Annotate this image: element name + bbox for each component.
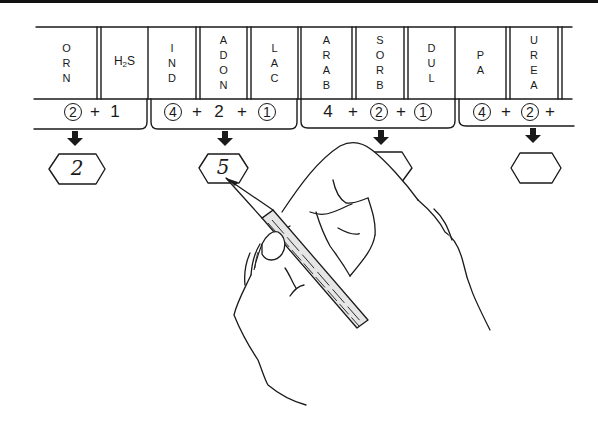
header-letter: B <box>323 78 330 93</box>
circled-score: 2 <box>370 103 388 121</box>
result-hexagon-4 <box>511 153 561 183</box>
test-header-h2s: H2S <box>101 28 148 98</box>
header-letter: U <box>428 56 436 71</box>
header-letter: R <box>323 48 331 63</box>
plus-sign: + <box>82 102 108 122</box>
test-header-ind: I N D <box>148 28 196 98</box>
header-letter: N <box>168 56 176 71</box>
score-value: 2 <box>212 102 226 122</box>
header-letter: A <box>323 63 330 78</box>
header-letter: R <box>63 56 71 71</box>
circled-score: 2 <box>64 103 82 121</box>
header-letter: A <box>477 63 484 78</box>
header-letter: S <box>376 33 383 48</box>
header-letter: P <box>477 48 484 63</box>
header-letter: I <box>170 41 173 56</box>
header-letter: L <box>428 71 434 86</box>
header-letter: O <box>62 41 71 56</box>
header-letter: O <box>219 63 228 78</box>
header-letter: D <box>220 48 228 63</box>
score-group-2: 4 + 2 + 1 <box>164 100 276 124</box>
score-value: 1 <box>108 102 122 122</box>
plus-sign: + <box>336 102 370 122</box>
plus-sign: + <box>182 102 212 122</box>
test-header-pa: P A <box>455 28 506 98</box>
arrow-down-icon <box>525 128 541 143</box>
arrows <box>67 128 541 146</box>
plus-sign: + <box>226 102 258 122</box>
circled-score: 1 <box>258 103 276 121</box>
test-header-lac: L A C <box>251 28 298 98</box>
test-header-adon: A D O N <box>200 28 247 98</box>
score-group-4: 4 + 2 + <box>473 100 561 124</box>
header-letter: N <box>63 71 71 86</box>
circled-score: 2 <box>521 103 539 121</box>
result-value-group-2: 5 <box>203 155 243 179</box>
header-letter: C <box>271 71 279 86</box>
header-letter: A <box>530 78 537 93</box>
circled-score: 4 <box>164 103 182 121</box>
header-letter: B <box>376 78 383 93</box>
test-header-sorb: S O R B <box>356 28 404 98</box>
arrow-down-icon <box>373 130 389 145</box>
arrow-down-icon <box>67 131 83 146</box>
header-letter: N <box>220 78 228 93</box>
score-group-1: 2 + 1 <box>64 100 122 124</box>
test-header-arab: A R A B <box>301 28 352 98</box>
header-letter: D <box>168 71 176 86</box>
header-letter: D <box>428 41 436 56</box>
plus-sign: + <box>491 102 521 122</box>
h2s-label: H2S <box>114 54 135 72</box>
plus-sign: + <box>388 102 414 122</box>
header-letter: A <box>323 33 330 48</box>
header-letter: U <box>530 33 538 48</box>
header-letter: R <box>530 48 538 63</box>
header-letter: O <box>376 48 385 63</box>
header-letter: A <box>220 33 227 48</box>
hand-illustration <box>234 143 490 405</box>
score-group-3: 4 + 2 + 1 <box>320 100 432 124</box>
circled-score: 4 <box>473 103 491 121</box>
score-value: 4 <box>320 102 336 122</box>
arrow-down-icon <box>217 131 233 146</box>
header-letter: L <box>271 41 277 56</box>
test-header-orn: O R N <box>36 28 97 98</box>
header-letter: R <box>376 63 384 78</box>
header-letter: A <box>271 56 278 71</box>
header-letter: E <box>530 63 537 78</box>
plus-sign: + <box>539 102 561 122</box>
circled-score: 1 <box>414 103 432 121</box>
test-header-urea: U R E A <box>510 28 558 98</box>
test-header-dul: D U L <box>408 28 455 98</box>
result-value-group-1: 2 <box>57 156 97 180</box>
